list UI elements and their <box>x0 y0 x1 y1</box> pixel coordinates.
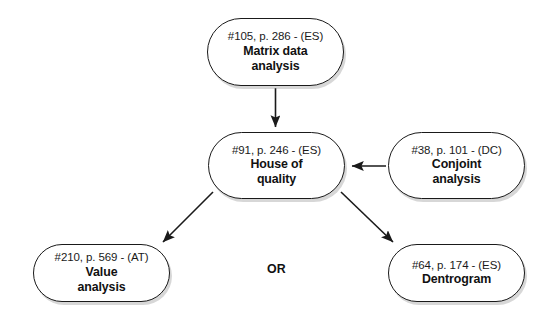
node-title-line-2: analysis <box>77 280 125 295</box>
node-title-line-2: quality <box>257 172 296 187</box>
node-value-analysis[interactable]: #210, p. 569 - (AT) Value analysis <box>33 244 170 302</box>
node-title-line-2: analysis <box>432 172 480 187</box>
node-title-line-1: Value <box>86 265 118 280</box>
node-reference: #64, p. 174 - (ES) <box>412 259 501 273</box>
node-title-line-1: Matrix data <box>243 44 307 59</box>
or-connector-label: OR <box>267 262 286 276</box>
node-house-of-quality[interactable]: #91, p. 246 - (ES) House of quality <box>208 132 345 199</box>
node-title-line-1: Conjoint <box>432 157 481 172</box>
node-matrix-data-analysis[interactable]: #105, p. 286 - (ES) Matrix data analysis <box>207 18 344 86</box>
diagram-canvas: #105, p. 286 - (ES) Matrix data analysis… <box>0 0 549 315</box>
node-reference: #38, p. 101 - (DC) <box>411 144 501 158</box>
node-reference: #91, p. 246 - (ES) <box>232 144 321 158</box>
node-title-line-2: analysis <box>251 59 299 74</box>
edge-house-to-value <box>163 192 213 242</box>
node-title-line-1: House of <box>250 157 302 172</box>
edge-house-to-dentrogram <box>341 192 393 242</box>
node-reference: #210, p. 569 - (AT) <box>55 251 149 265</box>
node-dentrogram[interactable]: #64, p. 174 - (ES) Dentrogram <box>388 244 525 302</box>
node-conjoint-analysis[interactable]: #38, p. 101 - (DC) Conjoint analysis <box>388 132 525 199</box>
node-reference: #105, p. 286 - (ES) <box>228 30 323 44</box>
node-title-line-1: Dentrogram <box>422 272 491 287</box>
